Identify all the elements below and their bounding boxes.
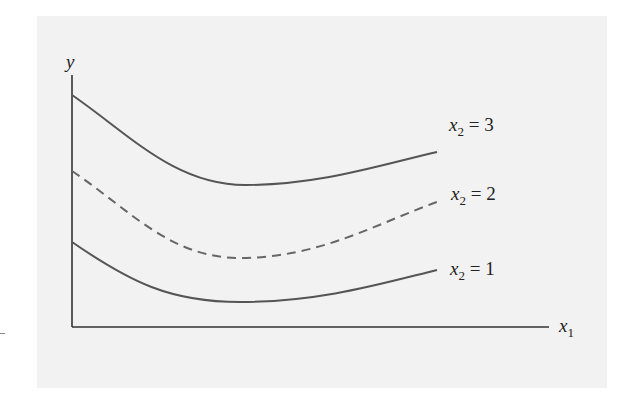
plot-area: y x1 x2 = 3 x2 = 2 x2 = 1: [0, 0, 629, 396]
label-x2-3: x2 = 3: [448, 114, 494, 139]
curve-x2-3: [72, 95, 437, 185]
x-axis-label: x1: [558, 315, 574, 340]
y-axis-label: y: [64, 51, 75, 72]
label-x2-2: x2 = 2: [450, 183, 496, 208]
curve-x2-1: [72, 242, 437, 302]
label-x2-1: x2 = 1: [449, 258, 495, 283]
